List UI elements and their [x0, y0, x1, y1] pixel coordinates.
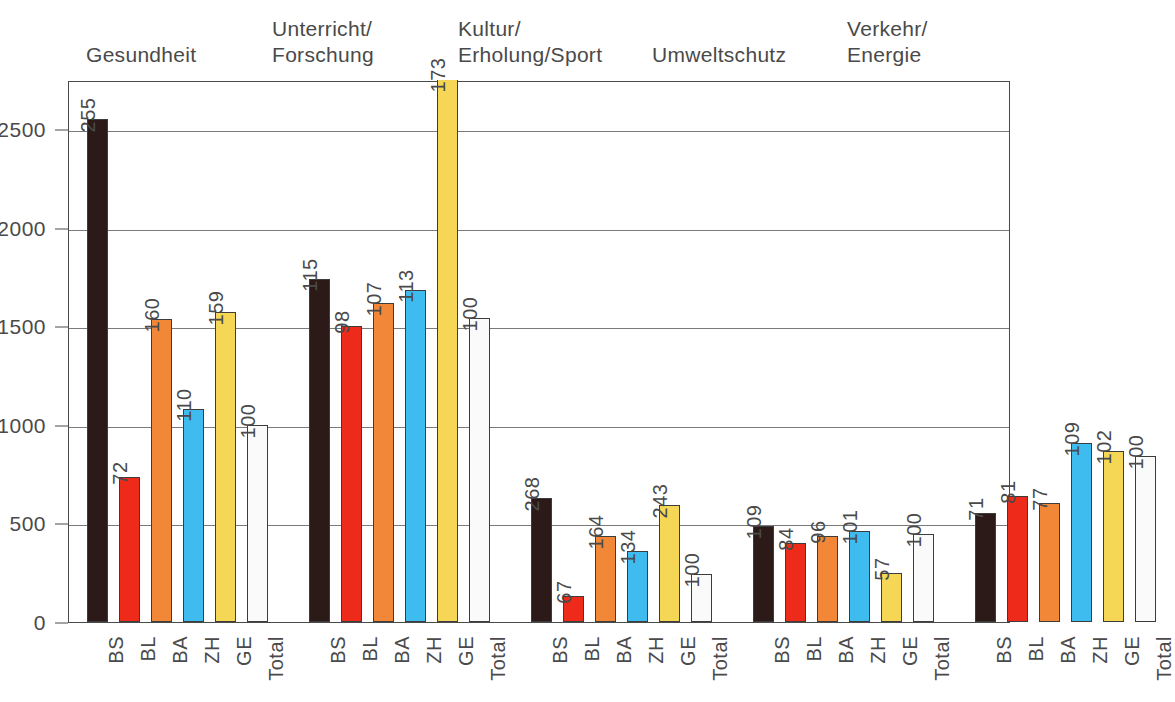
bar: 71 — [975, 513, 996, 622]
x-label-bl: BL — [138, 636, 158, 661]
group-title-5: Verkehr/ Energie — [847, 16, 928, 68]
bar: 107 — [373, 303, 394, 622]
gridline-1000 — [69, 427, 1009, 428]
bar: 134 — [627, 551, 648, 622]
bar-value-label: 67 — [554, 581, 574, 604]
x-label-total: Total — [488, 636, 508, 681]
bar-value-label: 57 — [872, 557, 892, 580]
bar-value-label: 100 — [1126, 435, 1146, 470]
x-label-bl: BL — [360, 636, 380, 661]
x-label-total: Total — [932, 636, 952, 681]
bar: 109 — [1071, 443, 1092, 622]
bar: 96 — [817, 536, 838, 622]
y-tick-mark-500 — [55, 524, 68, 525]
x-label-total: Total — [1154, 636, 1174, 681]
bar-value-label: 160 — [142, 298, 162, 333]
x-label-bl: BL — [1026, 636, 1046, 661]
x-label-bs: BS — [772, 636, 792, 664]
bar-value-label: 107 — [364, 281, 384, 316]
bar-value-label: 100 — [238, 403, 258, 438]
bar: 100 — [469, 318, 490, 622]
bar-value-label: 84 — [776, 528, 796, 551]
bar: 115 — [309, 279, 330, 622]
bar-value-label: 98 — [332, 311, 352, 334]
x-label-ba: BA — [614, 636, 634, 664]
bar: 109 — [753, 526, 774, 622]
bar-value-label: 100 — [460, 297, 480, 332]
y-tick-mark-2000 — [55, 228, 68, 229]
y-tick-mark-0 — [55, 623, 68, 624]
bar: 100 — [913, 534, 934, 622]
bar-value-label: 72 — [110, 462, 130, 485]
y-tick-label-1000: 1000 — [0, 414, 46, 438]
bar: 100 — [247, 425, 268, 622]
bar-value-label: 110 — [174, 388, 194, 421]
x-label-ba: BA — [1058, 636, 1078, 664]
bar: 98 — [341, 326, 362, 622]
x-label-total: Total — [710, 636, 730, 681]
group-title-4: Umweltschutz — [652, 42, 786, 68]
x-label-ge: GE — [456, 636, 476, 666]
bar: 113 — [405, 290, 426, 622]
x-label-ge: GE — [1122, 636, 1142, 666]
bar-value-label: 100 — [682, 552, 702, 587]
group-title-1: Gesundheit — [86, 42, 196, 68]
x-label-bs: BS — [328, 636, 348, 664]
bar-value-label: 268 — [522, 476, 542, 511]
bar: 164 — [595, 536, 616, 622]
x-label-zh: ZH — [424, 636, 444, 664]
bar-value-label: 100 — [904, 513, 924, 548]
bar-value-label: 173 — [428, 58, 448, 93]
x-label-zh: ZH — [646, 636, 666, 664]
y-tick-mark-1000 — [55, 425, 68, 426]
bar: 102 — [1103, 451, 1124, 622]
y-tick-label-0: 0 — [34, 611, 46, 635]
bar: 77 — [1039, 503, 1060, 622]
bar-value-label: 102 — [1094, 429, 1114, 464]
bar-value-label: 115 — [300, 258, 320, 291]
bar: 100 — [691, 574, 712, 622]
x-label-bl: BL — [804, 636, 824, 661]
group-title-3: Kultur/ Erholung/Sport — [458, 16, 602, 68]
x-label-ba: BA — [170, 636, 190, 664]
y-tick-label-500: 500 — [9, 512, 46, 536]
bar: 268 — [531, 498, 552, 622]
bar: 159 — [215, 312, 236, 622]
plot-area: 2557216011015910011598107113173100268671… — [68, 81, 1010, 623]
bar: 100 — [1135, 456, 1156, 622]
x-label-ba: BA — [836, 636, 856, 664]
x-label-bs: BS — [106, 636, 126, 664]
gridline-1500 — [69, 328, 1009, 329]
gridline-2000 — [69, 230, 1009, 231]
x-label-zh: ZH — [868, 636, 888, 664]
bar-value-label: 113 — [396, 269, 416, 302]
x-label-zh: ZH — [1090, 636, 1110, 664]
bar-value-label: 109 — [1062, 421, 1082, 456]
y-tick-label-2000: 2000 — [0, 217, 46, 241]
bar-value-label: 101 — [840, 510, 860, 545]
bar: 84 — [785, 543, 806, 622]
x-label-zh: ZH — [202, 636, 222, 664]
gridline-2500 — [69, 131, 1009, 132]
y-tick-mark-1500 — [55, 327, 68, 328]
bar-value-label: 109 — [744, 505, 764, 540]
bar: 67 — [563, 596, 584, 622]
x-label-ge: GE — [900, 636, 920, 666]
bar: 110 — [183, 409, 204, 622]
bar-value-label: 77 — [1030, 487, 1050, 510]
bar: 101 — [849, 531, 870, 622]
y-tick-label-1500: 1500 — [0, 315, 46, 339]
x-label-bl: BL — [582, 636, 602, 661]
bar-value-label: 255 — [78, 98, 98, 133]
bar-value-label: 81 — [998, 480, 1018, 503]
bar: 57 — [881, 573, 902, 622]
bar: 255 — [87, 119, 108, 622]
x-label-ba: BA — [392, 636, 412, 664]
bar-value-label: 96 — [808, 521, 828, 544]
bar-value-label: 134 — [618, 530, 638, 565]
x-label-ge: GE — [234, 636, 254, 666]
x-label-total: Total — [266, 636, 286, 681]
group-title-2: Unterricht/ Forschung — [272, 16, 374, 68]
bar-value-label: 243 — [650, 483, 670, 518]
